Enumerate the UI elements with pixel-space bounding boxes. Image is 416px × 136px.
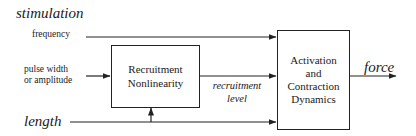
recruitment-level-label: recruitment level <box>205 80 269 105</box>
activation-contraction-block: Activation and Contraction Dynamics <box>277 30 350 130</box>
muscle-model-block-diagram: stimulation frequency pulse width or amp… <box>0 0 416 136</box>
activation-block-line2: and <box>288 67 340 80</box>
force-label: force <box>364 60 394 75</box>
amplitude-label: or amplitude <box>24 76 72 86</box>
frequency-label: frequency <box>32 30 70 40</box>
activation-block-line1: Activation <box>288 54 340 67</box>
length-label: length <box>24 114 62 129</box>
activation-block-line4: Dynamics <box>288 93 340 106</box>
pulse-width-label: pulse width <box>24 65 68 75</box>
recruitment-block-line2: Nonlinearity <box>128 77 184 90</box>
recruitment-block-line1: Recruitment <box>128 63 184 76</box>
recruitment-nonlinearity-block: Recruitment Nonlinearity <box>111 45 200 108</box>
recruitment-level-line1: recruitment <box>205 80 269 93</box>
stimulation-label: stimulation <box>16 6 84 21</box>
activation-block-line3: Contraction <box>288 80 340 93</box>
recruitment-level-line2: level <box>205 93 269 106</box>
